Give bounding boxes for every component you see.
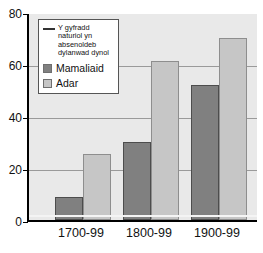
y-tick-label-60: 60 xyxy=(0,59,22,73)
legend-item-natural-rate: Y gyfradd naturiol yn absenoldeb dylanwa… xyxy=(43,24,115,58)
legend-item-mamaliaid-label: Mamaliaid xyxy=(56,63,104,74)
bar-adar-1700-99 xyxy=(83,154,111,220)
natural-rate-reference-line xyxy=(29,215,257,217)
bar-adar-1800-99 xyxy=(151,61,179,220)
y-tick-label-80: 80 xyxy=(0,7,22,21)
x-tick-label-1900-99: 1900-99 xyxy=(194,226,240,240)
x-tick-label-1700-99: 1700-99 xyxy=(58,226,104,240)
chart-legend: Y gyfradd naturiol yn absenoldeb dylanwa… xyxy=(38,19,119,94)
legend-item-adar-label: Adar xyxy=(56,78,78,89)
legend-item-adar: Adar xyxy=(43,78,115,89)
legend-line-4: dylanwad dynol xyxy=(58,48,109,57)
legend-item-mamaliaid: Mamaliaid xyxy=(43,63,115,74)
legend-item-natural-rate-label: Y gyfradd naturiol yn absenoldeb dylanwa… xyxy=(58,24,109,58)
plot-area: Y gyfradd naturiol yn absenoldeb dylanwa… xyxy=(27,14,257,222)
bar-chart-figure: 80 60 40 20 0 xyxy=(0,0,263,253)
box-swatch-dark-icon xyxy=(43,64,52,73)
y-tick-label-0: 0 xyxy=(0,215,22,229)
line-swatch-icon xyxy=(43,25,55,33)
bar-mamaliaid-1900-99 xyxy=(191,85,219,220)
bar-adar-1900-99 xyxy=(219,38,247,220)
y-tick-label-20: 20 xyxy=(0,163,22,177)
x-tick-label-1800-99: 1800-99 xyxy=(126,226,172,240)
y-tick-mark-0 xyxy=(23,222,28,223)
bar-mamaliaid-1800-99 xyxy=(123,142,151,220)
box-swatch-light-icon xyxy=(43,79,52,88)
y-tick-label-40: 40 xyxy=(0,111,22,125)
